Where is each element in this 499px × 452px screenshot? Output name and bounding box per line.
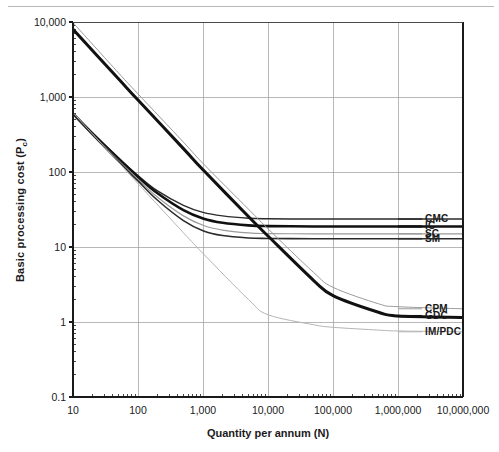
- chart-container: Basic processing cost (Pc) Quantity per …: [0, 0, 499, 452]
- legend-label-gdc: GDC: [425, 311, 448, 321]
- legend-label-im-pdc: IM/PDC: [425, 327, 461, 337]
- legend-label-sm: SM: [425, 234, 440, 244]
